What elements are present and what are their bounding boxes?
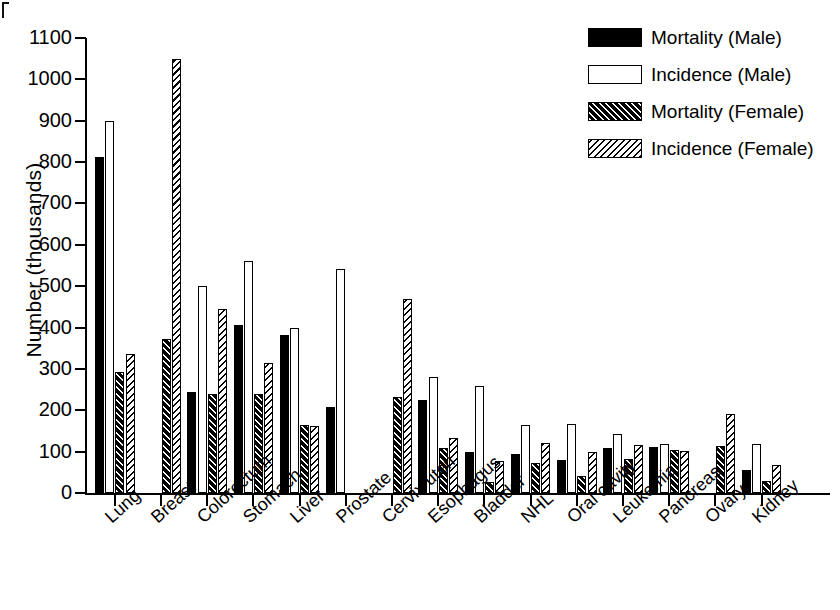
bar-group [511, 38, 551, 493]
bar [95, 157, 104, 493]
legend-label: Mortality (Female) [651, 101, 804, 123]
bar [172, 59, 181, 493]
bar [393, 397, 402, 493]
bar [557, 460, 566, 493]
y-axis-tick-label: 1100 [29, 27, 72, 47]
bar [105, 121, 114, 493]
legend-label: Incidence (Female) [651, 138, 814, 160]
legend: Mortality (Male)Incidence (Male)Mortalit… [588, 22, 838, 170]
legend-item: Incidence (Male) [588, 59, 838, 90]
figure-corner-mark [2, 2, 9, 18]
bar-group [465, 38, 505, 493]
legend-item: Mortality (Female) [588, 96, 838, 127]
legend-label: Incidence (Male) [651, 64, 791, 86]
y-axis-tick-label: 1000 [28, 68, 73, 88]
chart-figure: Number (thousands) 010020030040050060070… [0, 0, 840, 610]
bar [115, 372, 124, 493]
legend-swatch [588, 28, 642, 47]
bar [403, 299, 412, 493]
bar-group [95, 38, 135, 493]
bar [218, 309, 227, 493]
bar [187, 392, 196, 493]
y-axis-tick-label: 800 [39, 151, 72, 171]
bar-group [234, 38, 274, 493]
legend-swatch [588, 65, 642, 84]
y-axis-tick-label: 700 [39, 192, 72, 212]
bar [126, 354, 135, 493]
bar-group [187, 38, 227, 493]
bar [208, 394, 217, 493]
bar [541, 443, 550, 493]
bar [336, 269, 345, 493]
bar [567, 424, 576, 493]
legend-label: Mortality (Male) [651, 27, 782, 49]
bar-group [141, 38, 181, 493]
bar [162, 339, 171, 493]
bar-group [280, 38, 320, 493]
y-axis-tick-label: 400 [39, 317, 72, 337]
y-axis-tick-label: 500 [39, 275, 72, 295]
legend-swatch [588, 139, 642, 158]
bar-group [326, 38, 366, 493]
y-axis-tick-label: 600 [39, 234, 72, 254]
bar [326, 407, 335, 493]
legend-swatch [588, 102, 642, 121]
y-axis-tick-label: 0 [61, 482, 72, 502]
legend-item: Incidence (Female) [588, 133, 838, 164]
bar-group [372, 38, 412, 493]
bar-group [418, 38, 458, 493]
y-axis-tick-label: 900 [39, 110, 72, 130]
bar [752, 444, 761, 493]
y-axis-tick-label: 300 [39, 358, 72, 378]
y-axis-tick-label: 200 [39, 399, 72, 419]
y-axis-tick-label: 100 [39, 441, 72, 461]
bar [531, 463, 540, 493]
bar [198, 286, 207, 493]
bar [310, 426, 319, 493]
legend-item: Mortality (Male) [588, 22, 838, 53]
